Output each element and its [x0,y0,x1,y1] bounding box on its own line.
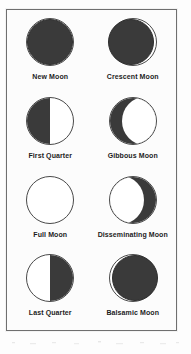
moon-graphic-gibbous-moon [109,97,157,145]
moon-phase-chart-frame: New Moon Crescent Moon First Quarter [6,9,177,331]
phase-cell-disseminating-moon: Disseminating Moon [92,171,175,250]
scan-speckle-artifacts [0,336,191,354]
moon-terminator-cut [110,177,144,223]
phase-label: Crescent Moon [107,72,159,81]
moon-shadow-crescent-right [110,177,156,223]
phase-label: Full Moon [33,230,67,239]
phase-cell-balsamic-moon: Balsamic Moon [92,249,175,328]
phase-label: New Moon [32,72,68,81]
moon-shadow-offset-left [108,19,154,65]
moon-graphic-disseminating-moon [109,176,157,224]
phase-label: Balsamic Moon [106,308,159,317]
phase-label: Disseminating Moon [98,230,168,239]
moon-shadow-half-right [50,255,73,301]
phase-label: Gibbous Moon [108,151,158,160]
moon-graphic-first-quarter [26,97,74,145]
moon-phase-grid: New Moon Crescent Moon First Quarter [7,10,176,330]
phase-label: Last Quarter [29,308,72,317]
moon-graphic-crescent-moon [109,18,157,66]
phase-cell-first-quarter: First Quarter [9,92,92,171]
moon-disc-outline [26,176,74,224]
moon-shadow-offset-right [112,255,158,301]
moon-graphic-last-quarter [26,254,74,302]
moon-terminator-cut [122,98,156,144]
phase-cell-gibbous-moon: Gibbous Moon [92,92,175,171]
moon-graphic-new-moon [26,18,74,66]
phase-cell-crescent-moon: Crescent Moon [92,13,175,92]
moon-graphic-balsamic-moon [109,254,157,302]
moon-shadow-crescent-left [110,98,156,144]
phase-cell-last-quarter: Last Quarter [9,249,92,328]
scanned-page: New Moon Crescent Moon First Quarter [0,0,191,354]
phase-label: First Quarter [28,151,72,160]
phase-cell-new-moon: New Moon [9,13,92,92]
moon-graphic-full-moon [26,176,74,224]
moon-shadow-full [27,19,73,65]
phase-cell-full-moon: Full Moon [9,171,92,250]
